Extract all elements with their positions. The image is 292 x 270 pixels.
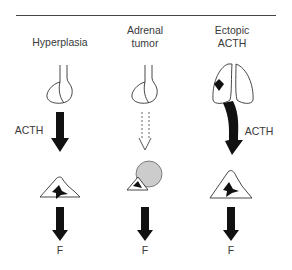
cortisol-arrow-icon — [223, 207, 239, 241]
dashed-arrow-icon — [142, 112, 149, 138]
acth-label-ectopic: ACTH — [244, 125, 274, 137]
pituitary-icon — [132, 65, 157, 103]
adrenal-gland-icon — [210, 171, 252, 198]
cortisol-arrow-icon — [137, 207, 153, 241]
adrenal-gland-icon — [40, 177, 80, 199]
acth-label-hyperplasia: ACTH — [14, 124, 44, 136]
pituitary-icon — [47, 65, 72, 103]
curved-acth-arrow-icon — [223, 101, 243, 155]
output-label-f: F — [50, 244, 70, 256]
output-label-f: F — [221, 244, 241, 256]
dashed-arrowhead-icon — [139, 138, 151, 150]
acth-arrow-icon — [51, 112, 69, 152]
adrenal-tumor-icon — [127, 161, 162, 190]
cortisol-arrow-icon — [52, 207, 68, 241]
output-label-f: F — [135, 244, 155, 256]
